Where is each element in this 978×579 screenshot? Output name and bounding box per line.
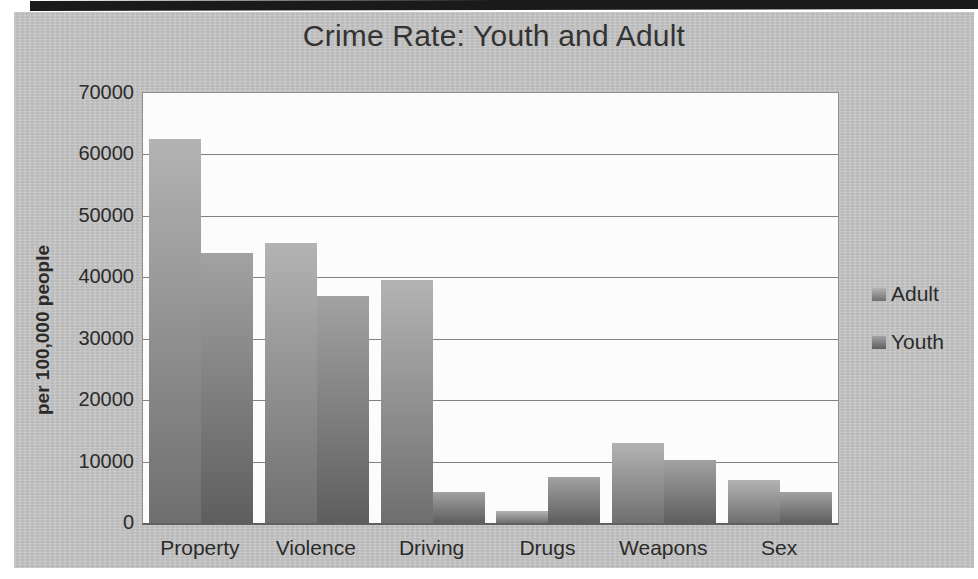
x-axis-label-drugs: Drugs xyxy=(490,534,606,562)
bar-youth-property xyxy=(201,253,253,523)
x-axis-label-weapons: Weapons xyxy=(605,534,721,562)
legend-item-youth: Youth xyxy=(872,329,944,355)
bar-adult-property xyxy=(149,139,201,523)
chart-title: Crime Rate: Youth and Adult xyxy=(14,18,974,53)
x-axis-label-sex: Sex xyxy=(721,534,837,562)
y-tick-label-0: 0 xyxy=(54,510,134,534)
legend-swatch-adult xyxy=(872,288,886,301)
scanned-page: Crime Rate: Youth and Adult per 100,000 … xyxy=(0,0,978,579)
bar-youth-sex xyxy=(780,492,832,523)
y-tick-label-70000: 70000 xyxy=(54,80,134,104)
x-axis-label-driving: Driving xyxy=(374,534,490,562)
scan-edge-artifact xyxy=(30,0,978,11)
bar-adult-driving xyxy=(381,280,433,523)
y-tick-label-40000: 40000 xyxy=(54,264,134,288)
bar-adult-drugs xyxy=(496,511,548,523)
y-tick-label-10000: 10000 xyxy=(54,449,134,473)
bar-adult-violence xyxy=(265,243,317,523)
legend-label-adult: Adult xyxy=(891,281,939,307)
y-tick-label-20000: 20000 xyxy=(54,387,134,411)
bar-youth-driving xyxy=(433,492,485,523)
bar-youth-weapons xyxy=(664,460,716,523)
y-axis-title: per 100,000 people xyxy=(29,220,57,440)
bar-adult-weapons xyxy=(612,443,664,523)
y-tick-label-50000: 50000 xyxy=(54,203,134,227)
bar-adult-sex xyxy=(728,480,780,523)
bar-youth-drugs xyxy=(548,477,600,523)
legend-label-youth: Youth xyxy=(891,329,944,355)
x-axis-label-violence: Violence xyxy=(258,534,374,562)
plot-area xyxy=(142,92,839,525)
gridline-50000 xyxy=(143,216,838,217)
bar-youth-violence xyxy=(317,296,369,523)
legend-swatch-youth xyxy=(872,336,886,349)
y-tick-label-30000: 30000 xyxy=(54,326,134,350)
y-tick-label-60000: 60000 xyxy=(54,141,134,165)
x-axis-label-property: Property xyxy=(142,534,258,562)
legend-item-adult: Adult xyxy=(872,281,939,307)
gridline-60000 xyxy=(143,154,838,155)
